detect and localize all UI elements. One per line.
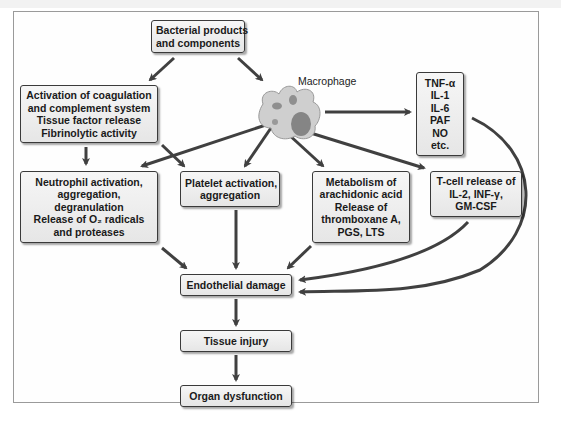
node-endothelial-damage: Endothelial damage (180, 274, 292, 296)
node-text: IL-2, INF-γ, (435, 188, 517, 201)
node-platelet: Platelet activation, aggregation (180, 171, 280, 207)
node-text: Endothelial damage (185, 279, 287, 292)
macrophage-label: Macrophage (298, 75, 356, 87)
node-text: degranulation (25, 201, 153, 214)
node-tissue-injury: Tissue injury (180, 330, 292, 352)
node-text: aggregation, (25, 188, 153, 201)
node-text: Tissue injury (185, 335, 287, 348)
macrophage-cell-icon (255, 82, 327, 144)
node-text: Release of O₂ radicals (25, 213, 153, 226)
node-text: Fibrinolytic activity (25, 127, 153, 140)
node-text: Neutrophil activation, (25, 176, 153, 189)
node-text: NO (421, 127, 459, 140)
node-text: T-cell release of (435, 175, 517, 188)
node-text: Release of (317, 201, 405, 214)
node-text: and complement system (25, 102, 153, 115)
node-text: IL-1 (421, 89, 459, 102)
node-text: etc. (421, 139, 459, 152)
node-cytokines: TNF-α IL-1 IL-6 PAF NO etc. (416, 72, 464, 156)
arrow-arachidonic-endo (288, 246, 311, 268)
node-organ-dysfunction: Organ dysfunction (180, 385, 292, 407)
node-bacterial-products: Bacterial products and components (151, 20, 245, 53)
node-coagulation: Activation of coagulation and complement… (20, 85, 158, 143)
node-text: Tissue factor release (25, 114, 153, 127)
node-text: and components (156, 37, 240, 50)
arrow-bacterial-macrophage (238, 58, 262, 80)
node-text: Bacterial products (156, 24, 240, 37)
node-text: Organ dysfunction (185, 390, 287, 403)
node-text: Metabolism of (317, 176, 405, 189)
node-text: TNF-α (421, 77, 459, 90)
node-text: aggregation (185, 189, 275, 202)
node-text: PAF (421, 114, 459, 127)
node-text: arachidonic acid (317, 188, 405, 201)
arrow-bacterial-coagulation (150, 58, 174, 80)
node-neutrophil: Neutrophil activation, aggregation, degr… (20, 171, 158, 243)
node-text: thromboxane A, (317, 213, 405, 226)
node-arachidonic: Metabolism of arachidonic acid Release o… (312, 171, 410, 243)
node-text: and proteases (25, 226, 153, 239)
node-text: Platelet activation, (185, 177, 275, 190)
arrow-neutrophil-endo (162, 248, 186, 268)
node-text: GM-CSF (435, 200, 517, 213)
node-text: Activation of coagulation (25, 89, 153, 102)
node-text: IL-6 (421, 102, 459, 115)
node-text: PGS, LTS (317, 226, 405, 239)
node-tcell: T-cell release of IL-2, INF-γ, GM-CSF (430, 171, 522, 217)
